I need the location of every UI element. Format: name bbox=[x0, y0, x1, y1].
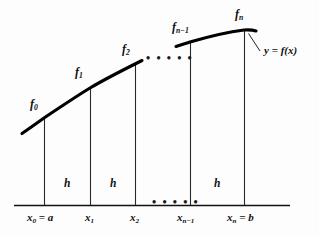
curve-label-fx: f(x) bbox=[281, 44, 298, 56]
axis-label-x1-sub: 1 bbox=[91, 217, 95, 225]
curve-label-equals: = bbox=[272, 44, 278, 56]
ordinate-label-fn-1: fn−1 bbox=[172, 21, 189, 34]
axis-ellipsis: • • • • • bbox=[152, 196, 199, 208]
ordinate-label-fn: fn bbox=[235, 8, 243, 21]
ordinate-label-fn-1-sub: n−1 bbox=[176, 26, 189, 35]
curve-ellipsis: • • • • • bbox=[146, 52, 193, 64]
ordinate-label-f0-sub: 0 bbox=[34, 103, 38, 112]
spacing-label-h-3: h bbox=[214, 178, 220, 190]
ordinate-label-fn-sub: n bbox=[239, 13, 243, 22]
axis-label-xn-suffix: = b bbox=[236, 211, 253, 223]
ordinate-label-f0: f0 bbox=[30, 98, 38, 111]
axis-label-xn: xn = b bbox=[227, 212, 254, 225]
axis-label-x0: x0 = a bbox=[27, 212, 53, 225]
curve-function-label: y = f(x) bbox=[264, 45, 297, 56]
axis-label-xn-1-sub: n−1 bbox=[183, 217, 195, 225]
curve-label-y: y bbox=[264, 44, 269, 56]
axis-label-xn-1: xn−1 bbox=[177, 212, 194, 225]
spacing-label-h-1: h bbox=[64, 178, 70, 190]
axis-label-x0-suffix: = a bbox=[36, 211, 53, 223]
axis-label-x2-sub: 2 bbox=[136, 217, 140, 225]
ordinate-label-f2-sub: 2 bbox=[126, 48, 130, 57]
integration-diagram: f0 f1 f2 fn−1 fn • • • • • y = f(x) h h … bbox=[0, 0, 319, 236]
axis-label-x1: x1 bbox=[85, 212, 94, 225]
spacing-label-h-2: h bbox=[110, 178, 116, 190]
curve-label-leader-line bbox=[249, 34, 261, 52]
ordinate-label-f2: f2 bbox=[122, 43, 130, 56]
ordinate-label-f1: f1 bbox=[75, 66, 83, 79]
ordinate-label-f1-sub: 1 bbox=[79, 71, 83, 80]
axis-label-x2: x2 bbox=[130, 212, 139, 225]
